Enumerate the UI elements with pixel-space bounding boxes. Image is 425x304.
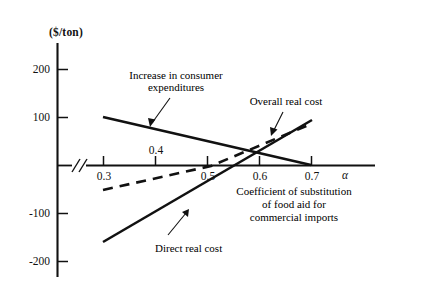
x-tick-label-0-7: 0.7 (292, 170, 332, 184)
leader-arrowhead-overall-real-cost (270, 127, 278, 136)
x-tick-label-0-4: 0.4 (136, 144, 176, 158)
annotation-increase-consumer-expenditures: Increase in consumer expenditures (108, 69, 244, 93)
x-axis-caption-line-1: Coefficient of substitution (202, 185, 386, 198)
x-axis-caption: Coefficient of substitution of food aid … (202, 185, 386, 225)
x-axis-caption-line-3: commercial imports (202, 211, 386, 224)
y-tick-label-neg100: -100 (6, 207, 50, 221)
leader-line-direct-real-cost (168, 213, 186, 235)
leader-arrowhead-consumer-expenditures (148, 118, 156, 127)
y-tick-label-200: 200 (10, 63, 50, 77)
chart-plot-area (0, 0, 425, 304)
leader-line-consumer-expenditures (152, 98, 170, 123)
x-axis-break-mark-1 (72, 159, 80, 172)
y-tick-label-100: 100 (10, 111, 50, 125)
x-axis-caption-line-2: of food aid for (202, 198, 386, 211)
x-tick-label-0-6: 0.6 (240, 170, 280, 184)
x-tick-label-0-3: 0.3 (84, 170, 124, 184)
x-tick-label-0-5: 0.5 (188, 170, 228, 184)
annotation-consumer-line-2: expenditures (108, 81, 244, 93)
annotation-overall-real-cost: Overall real cost (228, 95, 344, 107)
y-axis-unit-label: ($/ton) (49, 26, 83, 40)
y-tick-label-neg200: -200 (6, 255, 50, 269)
x-axis-symbol-label: α (342, 169, 348, 183)
chart-figure: ($/ton) 200 100 -100 -200 0.3 0.4 0.5 0.… (0, 0, 425, 304)
annotation-consumer-line-1: Increase in consumer (108, 69, 244, 81)
annotation-direct-real-cost: Direct real cost (155, 242, 265, 254)
